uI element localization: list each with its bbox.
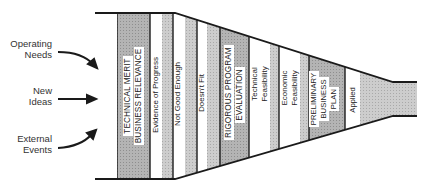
input-arrows (58, 52, 97, 148)
stage-label-line: TECHNICAL MERIT (123, 56, 133, 135)
input-label-line: New (0, 85, 52, 96)
stage-label-line: Technical (250, 59, 260, 109)
stage-label-applied: Applied (348, 80, 358, 120)
stage-label-doesnt-fit: Doesn't Fit (197, 71, 207, 115)
stage-band-doesnt-fit (207, 0, 220, 192)
funnel-diagram: Operating Needs New Ideas External Event… (0, 0, 431, 192)
arrowhead-icon (87, 95, 96, 103)
stage-label-line: Economic (280, 63, 290, 113)
input-label-line: External (0, 133, 52, 144)
stage-label-technical-merit: TECHNICAL MERIT BUSINESS RELEVANCE (123, 46, 145, 146)
stage-band-not-good (185, 0, 197, 192)
stage-label-tech-feas: Technical Feasibility (250, 59, 270, 109)
stage-band-tech-feas (270, 0, 279, 192)
stage-label-line: Evidence of Progress (151, 57, 160, 133)
stage-label-prelim: PRELIMINARY BUSINESS PLAN (309, 69, 341, 129)
stage-label-line: Doesn't Fit (197, 74, 206, 112)
stage-label-evidence: Evidence of Progress (151, 55, 161, 135)
stage-label-line: Feasibility (260, 59, 270, 109)
stage-label-line: PRELIMINARY (309, 71, 319, 127)
stage-label-line: BUSINESS (319, 77, 329, 120)
input-label-line: Operating (0, 38, 52, 49)
stage-band-econ-feas (300, 0, 309, 192)
arrow-icon (58, 134, 92, 148)
stage-label-line: Feasibility (290, 63, 300, 113)
stage-label-line: Not Good Enough (173, 62, 182, 126)
input-label-line: Ideas (0, 96, 52, 107)
stage-band-evidence (162, 0, 173, 192)
input-label-line: Needs (0, 49, 52, 60)
input-operating-needs: Operating Needs (0, 38, 52, 60)
stage-band-neck (360, 0, 417, 192)
funnel-graphic (0, 0, 431, 192)
input-external-events: External Events (0, 133, 52, 155)
input-label-line: Events (0, 144, 52, 155)
stage-label-line: RIGOROUS PROGRAM (224, 45, 234, 140)
stage-label-econ-feas: Economic Feasibility (280, 63, 300, 113)
stage-label-line: EVALUATION (235, 67, 245, 123)
stage-label-not-good: Not Good Enough (173, 62, 183, 126)
stage-label-rigorous: RIGOROUS PROGRAM EVALUATION (224, 50, 246, 140)
stage-label-line: BUSINESS RELEVANCE (134, 47, 144, 145)
stage-label-line: Applied (348, 87, 357, 112)
stage-label-line: PLAN (329, 87, 339, 111)
input-new-ideas: New Ideas (0, 85, 52, 107)
